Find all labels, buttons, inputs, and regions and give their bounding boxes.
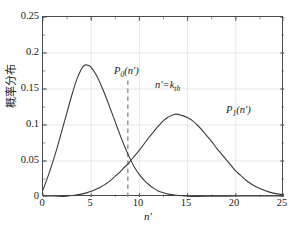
x-tick-label: 25 (267, 198, 296, 209)
plot-area: P0(n′) P1(n′) n′=kth (42, 16, 283, 196)
curve-label-p0: P0(n′) (114, 66, 139, 79)
threshold-subscript: th (174, 84, 180, 93)
y-axis-title: 概率分布 (2, 50, 18, 122)
threshold-base: n′=k (155, 79, 174, 90)
x-tick-label: 0 (27, 198, 57, 209)
figure-container: 0.25 0.2 0.15 0.1 0.05 0 0 5 10 15 20 25… (0, 0, 296, 227)
x-tick-label: 10 (123, 198, 153, 209)
curve-p1 (43, 114, 284, 197)
p0-tail: (n′) (124, 65, 139, 76)
x-tick-label: 15 (171, 198, 201, 209)
x-axis-title: n' (0, 210, 296, 222)
x-tick-label: 5 (75, 198, 105, 209)
threshold-label: n′=kth (155, 80, 180, 93)
curve-label-p1: P1(n′) (226, 105, 251, 118)
p1-tail: (n′) (236, 104, 251, 115)
x-tick-label: 20 (219, 198, 249, 209)
